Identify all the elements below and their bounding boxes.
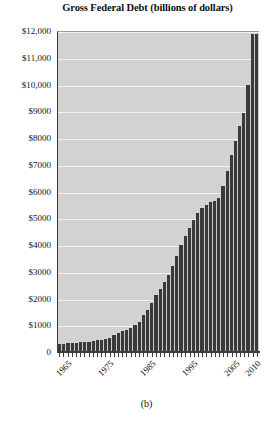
x-axis-tick-label: 1965	[38, 358, 73, 393]
chart-title: Gross Federal Debt (billions of dollars)	[0, 2, 269, 13]
y-axis-tick-label: $11,000	[22, 53, 51, 63]
y-axis-tick-label: $7000	[29, 160, 52, 170]
y-axis-tick-label: $5000	[29, 213, 52, 223]
y-axis-tick-label: $2000	[29, 294, 52, 304]
figure-panel-b: Gross Federal Debt (billions of dollars)…	[0, 0, 269, 423]
y-axis-tick-label: $8000	[29, 133, 52, 143]
x-axis-labels: 196519751985199520052010	[57, 357, 259, 393]
bar	[255, 34, 259, 352]
bar-series	[58, 32, 259, 352]
y-axis-tick-label: $12,000	[22, 26, 51, 36]
y-axis: 0$1000$2000$3000$4000$5000$6000$7000$800…	[0, 31, 55, 352]
plot-area	[57, 31, 259, 352]
y-axis-tick-label: $4000	[29, 240, 52, 250]
y-axis-tick-label: $3000	[29, 267, 52, 277]
y-axis-tick-label: $1000	[29, 320, 52, 330]
x-axis-tick-label: 1975	[80, 358, 115, 393]
x-axis-tick-label: 1985	[122, 358, 157, 393]
y-axis-tick-label: $10,000	[22, 80, 51, 90]
y-axis-tick-label: 0	[47, 347, 52, 357]
y-axis-tick-label: $9000	[29, 106, 52, 116]
panel-caption: (b)	[0, 398, 269, 409]
x-axis-tick-label: 1995	[164, 358, 199, 393]
y-axis-tick-label: $6000	[29, 187, 52, 197]
